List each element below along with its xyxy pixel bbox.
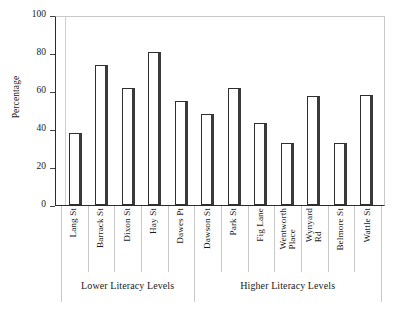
x-axis-label: Wattle St	[363, 208, 372, 243]
x-label-slot: Fig Lane	[248, 206, 275, 272]
group-separator	[381, 272, 382, 302]
bar-slot	[62, 17, 89, 205]
x-axis-label: WentworthPlace	[279, 208, 297, 250]
x-label-slot: WentworthPlace	[274, 206, 301, 272]
bars-container	[56, 17, 384, 205]
bar-slot	[115, 17, 142, 205]
y-tick-60: 60	[0, 92, 55, 93]
x-axis-label: WynyardRd	[305, 208, 323, 242]
x-label-slot: Dawes Pt	[168, 206, 195, 272]
x-label-slot: Barrack St	[88, 206, 115, 272]
bar	[201, 114, 214, 205]
x-axis-label: Barrack St	[96, 208, 105, 248]
plot-area	[55, 16, 385, 206]
x-label-slot: WynyardRd	[301, 206, 328, 272]
bar	[281, 143, 294, 205]
bar-slot	[248, 17, 275, 205]
y-tick-label: 40	[6, 123, 46, 133]
x-axis-label: Belmore St	[336, 208, 345, 251]
bar	[122, 88, 135, 205]
y-tick-0: 0	[0, 206, 55, 207]
bar	[360, 95, 373, 205]
x-label-slot: Wattle St	[354, 206, 381, 272]
bar	[307, 96, 320, 205]
bar	[148, 52, 161, 205]
y-tick-label: 20	[6, 161, 46, 171]
x-label-slot: Dawson St	[194, 206, 221, 272]
y-tick-label: 80	[6, 47, 46, 57]
x-label-slot: Park St	[221, 206, 248, 272]
x-axis-label: Dawson St	[203, 208, 212, 249]
bar	[228, 88, 241, 205]
bar-slot	[327, 17, 354, 205]
group-labels: Lower Literacy LevelsHigher Literacy Lev…	[55, 272, 385, 302]
bar-slot	[274, 17, 301, 205]
y-tick-label: 100	[6, 9, 46, 19]
clipped-text-remnant: · · · · · ·	[28, 0, 278, 5]
bar	[254, 123, 267, 205]
bar-chart: · · · · · · Percentage 020406080100 Lang…	[0, 0, 395, 309]
x-axis-label: Dawes Pt	[176, 208, 185, 244]
x-axis-label: Hay St	[150, 208, 159, 234]
x-axis-label: Dixon St	[123, 208, 132, 242]
x-label-slot: Dixon St	[114, 206, 141, 272]
group-label: Lower Literacy Levels	[61, 280, 194, 291]
bar-slot	[301, 17, 328, 205]
x-label-slot: Belmore St	[328, 206, 355, 272]
bar-slot	[89, 17, 116, 205]
x-label-slot: Lang St	[61, 206, 88, 272]
y-tick-label: 60	[6, 85, 46, 95]
x-axis-label: Park St	[230, 208, 239, 236]
y-tick-20: 20	[0, 168, 55, 169]
x-axis-label-line: Rd	[314, 208, 323, 242]
y-tick-40: 40	[0, 130, 55, 131]
bar	[175, 101, 188, 206]
group-separator	[194, 272, 195, 302]
bar-slot	[221, 17, 248, 205]
group-label: Higher Literacy Levels	[194, 280, 381, 291]
bar	[95, 65, 108, 205]
bar-slot	[142, 17, 169, 205]
x-axis-label-line: Place	[288, 208, 297, 250]
bar-slot	[168, 17, 195, 205]
bar	[69, 133, 82, 205]
y-tick-label: 0	[6, 199, 46, 209]
bar	[334, 143, 347, 205]
bar-slot	[195, 17, 222, 205]
x-axis-labels: Lang StBarrack StDixon StHay StDawes PtD…	[55, 206, 385, 272]
x-label-slot: Hay St	[141, 206, 168, 272]
y-axis-ticks: 020406080100	[0, 16, 55, 206]
x-axis-label: Fig Lane	[256, 208, 265, 242]
bar-slot	[354, 17, 381, 205]
group-separator	[61, 272, 62, 302]
x-axis-label: Lang St	[70, 208, 79, 238]
y-tick-100: 100	[0, 16, 55, 17]
y-tick-80: 80	[0, 54, 55, 55]
